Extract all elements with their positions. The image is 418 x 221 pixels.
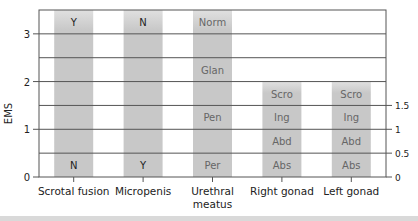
y-tick-right: 1 <box>395 125 401 135</box>
bar-scrotal-fusion <box>54 10 93 177</box>
x-tick-label: Scrotal fusion <box>38 185 110 197</box>
segment-label: Y <box>70 17 78 28</box>
segment-label: Glan <box>201 65 224 76</box>
y-tick-left: 3 <box>24 29 30 40</box>
segment-label: Norm <box>199 17 226 28</box>
bottom-divider <box>0 216 418 221</box>
x-tick-label: Left gonad <box>323 185 379 197</box>
segment-label: Ing <box>274 112 290 123</box>
x-tick-label: Urethral <box>191 185 234 197</box>
y-tick-left: 2 <box>24 77 30 88</box>
ems-bar-chart: NYYNPerPenGlanNormAbsAbdIngScroAbsAbdIng… <box>0 0 418 221</box>
y-tick-right: 0.5 <box>395 149 409 159</box>
y-tick-right: 0 <box>395 173 401 183</box>
segment-label: Abs <box>273 160 291 171</box>
segment-label: N <box>139 17 146 28</box>
y-tick-left: 0 <box>24 172 30 183</box>
segment-label: Per <box>205 160 222 171</box>
y-axis-label: EMS <box>3 103 14 124</box>
x-tick-label: meatus <box>193 198 232 210</box>
bar-micropenis <box>124 10 163 177</box>
x-tick-label: Right gonad <box>250 185 314 197</box>
segment-label: Y <box>139 160 147 171</box>
x-tick-label: Micropenis <box>115 185 171 197</box>
segment-label: Pen <box>203 112 221 123</box>
bar-urethral-meatus <box>193 10 232 177</box>
segment-label: Abd <box>342 136 362 147</box>
segment-label: Scro <box>340 89 362 100</box>
segment-label: Abd <box>272 136 292 147</box>
segment-label: Abs <box>342 160 360 171</box>
y-tick-right: 1.5 <box>395 101 409 111</box>
chart-canvas: NYYNPerPenGlanNormAbsAbdIngScroAbsAbdIng… <box>0 0 418 221</box>
segment-label: Ing <box>343 112 359 123</box>
segment-label: N <box>70 160 77 171</box>
y-tick-left: 1 <box>24 124 30 135</box>
segment-label: Scro <box>271 89 293 100</box>
